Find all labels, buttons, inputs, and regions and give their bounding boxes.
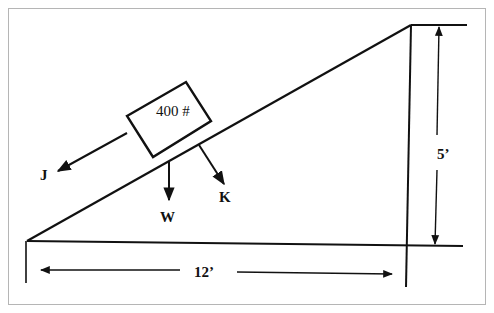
incline-line — [27, 25, 411, 241]
force-j-arrow — [58, 133, 127, 171]
vertical-dimension-arrow-down — [435, 170, 437, 244]
horizontal-dimension-label: 12’ — [194, 265, 214, 280]
force-k-label: K — [219, 190, 231, 205]
force-w-label: W — [160, 210, 175, 225]
block-weight-label: 400 # — [156, 104, 190, 119]
base-line — [27, 241, 463, 246]
horizontal-dimension-arrow-right — [237, 272, 392, 274]
force-k-arrow — [199, 145, 224, 184]
incline-diagram — [0, 0, 494, 313]
vertical-dimension-label: 5’ — [437, 147, 450, 162]
force-j-label: J — [40, 168, 48, 183]
vertical-dimension-arrow-up — [437, 27, 439, 135]
vertical-side-line — [406, 25, 411, 287]
